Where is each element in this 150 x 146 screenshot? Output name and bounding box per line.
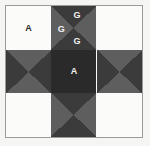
quilt-cell-bottom-left (6, 93, 51, 137)
patch-solid (51, 50, 96, 94)
quilt-cell-bottom-center (51, 93, 96, 137)
quilt-cell-middle-right (97, 50, 142, 94)
patch-solid (97, 93, 142, 137)
quilt-block-figure: AGGGA (0, 0, 150, 146)
quilt-cell-top-left: A (6, 6, 51, 50)
patch-solid (6, 93, 51, 137)
quilt-cell-top-right (97, 6, 142, 50)
quilt-cell-middle-left (6, 50, 51, 94)
patch-solid (6, 6, 51, 50)
patch-solid (97, 6, 142, 50)
quilt-grid: AGGGA (6, 6, 142, 137)
quilt-cell-center: A (51, 50, 96, 94)
quilt-cell-bottom-right (97, 93, 142, 137)
block-frame: AGGGA (5, 5, 143, 138)
quilt-cell-top-center: GGG (51, 6, 96, 50)
